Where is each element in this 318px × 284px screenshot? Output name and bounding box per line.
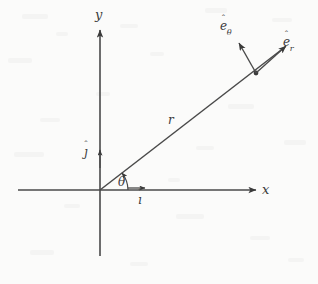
- unit-vector-e-theta-subscript: θ: [227, 27, 232, 37]
- polar-coordinate-diagram: y x r θ ˆ ı ˆ ȷ ˆ e r ˆ e θ: [0, 0, 318, 284]
- angle-theta-label: θ: [118, 176, 125, 188]
- unit-vector-j-label: ˆ ȷ: [84, 146, 88, 158]
- unit-vector-e-r-label: ˆ e r: [283, 36, 294, 51]
- hat-accent-icon: ˆ: [284, 30, 289, 40]
- unit-vector-e-theta-label: ˆ e θ: [220, 20, 232, 35]
- paper-texture: [8, 8, 306, 266]
- hat-accent-icon: ˆ: [83, 140, 88, 150]
- y-axis-label: y: [95, 8, 102, 21]
- unit-vector-e-r-subscript: r: [290, 43, 294, 53]
- unit-vector-e-r-arrow: [256, 46, 286, 73]
- unit-vector-i-label: ˆ ı: [138, 194, 142, 206]
- x-axis-label: x: [262, 183, 269, 196]
- unit-vector-e-theta-arrow: [239, 43, 256, 73]
- radius-label: r: [168, 114, 174, 126]
- diagram-canvas: [0, 0, 318, 284]
- radial-line: [100, 47, 285, 190]
- hat-accent-icon: ˆ: [137, 188, 142, 198]
- hat-accent-icon: ˆ: [221, 14, 226, 24]
